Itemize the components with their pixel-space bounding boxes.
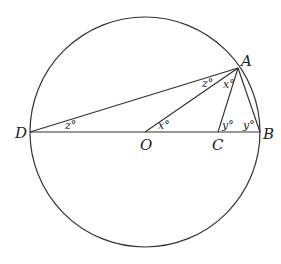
angle-x-at-A: x° xyxy=(223,78,235,91)
label-A: A xyxy=(239,52,252,70)
angle-y-at-C: y° xyxy=(221,119,234,132)
label-D: D xyxy=(14,124,27,142)
angle-z-at-D: z° xyxy=(64,119,76,132)
label-B: B xyxy=(262,125,274,143)
angle-x-at-O: x° xyxy=(158,119,170,132)
geometry-diagram: A B C D O z° z° x° x° y° y° xyxy=(0,0,281,264)
angle-y-at-B: y° xyxy=(242,119,255,132)
label-O: O xyxy=(140,136,152,154)
angle-z-at-A: z° xyxy=(201,77,213,90)
label-C: C xyxy=(212,136,224,154)
